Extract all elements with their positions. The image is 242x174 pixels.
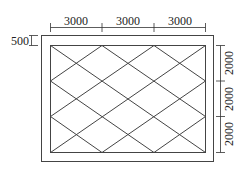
top-dim-label-2: 3000 [116, 14, 140, 28]
tile-layout-diagram: 3000 3000 3000 2000 2000 2000 500 [0, 0, 242, 174]
top-dimension: 3000 3000 3000 [51, 14, 206, 32]
right-dim-label-3: 2000 [222, 122, 236, 146]
border-dim-label: 500 [11, 34, 29, 48]
top-dim-label-1: 3000 [64, 14, 88, 28]
right-dimension: 2000 2000 2000 [216, 46, 236, 153]
top-dim-label-3: 3000 [168, 14, 192, 28]
border-dimension: 500 [11, 34, 38, 48]
diagonal-lattice [51, 46, 206, 153]
right-dim-label-1: 2000 [222, 51, 236, 75]
right-dim-label-2: 2000 [222, 87, 236, 111]
